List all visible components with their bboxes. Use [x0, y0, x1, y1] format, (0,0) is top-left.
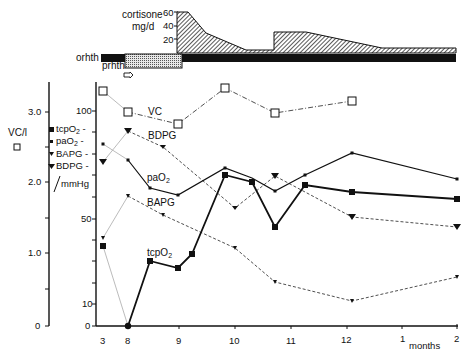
legend-bdpg: BDPG -	[56, 160, 89, 171]
mmhg-tick-10: 10	[82, 298, 93, 309]
vc-tick-3: 3.0	[28, 106, 41, 117]
x-tick-2: 2	[454, 333, 459, 344]
x-axis-label: months	[409, 340, 440, 351]
vc-axis-label: VC/l	[8, 127, 27, 138]
vc-tick-0: 0	[35, 320, 40, 331]
legend-tcpo2: tcpO2 -	[56, 123, 86, 135]
cortisone-label: cortisone	[122, 9, 163, 20]
x-tick-11: 11	[286, 335, 296, 346]
legend: tcpO2 - paO2 - BAPG - BDPG - mmHg	[48, 123, 89, 192]
pao2-legend-marker	[50, 140, 53, 143]
mmhg-tick-100: 100	[76, 105, 92, 116]
mmhg-tick-0: 0	[85, 320, 90, 331]
vc-tick-2: 2.0	[28, 176, 41, 187]
x-tick-10: 10	[229, 335, 240, 346]
prhth-label: prhth	[102, 60, 125, 71]
series-tcpo2: tcpO2	[100, 172, 460, 329]
x-tick-12: 12	[341, 334, 352, 345]
vc-legend-marker	[14, 144, 20, 150]
x-tick-1: 1	[400, 333, 405, 344]
bapg-legend-marker	[49, 152, 54, 156]
mmhg-tick-50: 50	[81, 213, 92, 224]
annotation-pao2: paO2	[147, 172, 170, 184]
cortisone-axis: 60 40 20	[163, 7, 178, 45]
annotation-tcpo2: tcpO2	[147, 247, 172, 259]
vc-axis: 3.0 2.0 1.0 0 VC/l	[8, 82, 49, 331]
tcpo2-legend-marker	[49, 127, 54, 132]
chart-figure: cortisone mg/d 60 40 20 orhth prhth 3.0	[0, 0, 468, 354]
orhth-label: orhth	[76, 52, 99, 63]
annotation-vc: VC	[148, 106, 162, 117]
x-tick-8: 8	[125, 335, 130, 346]
x-tick-3: 3	[100, 335, 105, 346]
cortisone-tick-60: 60	[163, 7, 174, 18]
legend-bapg: BAPG -	[56, 148, 88, 159]
cortisone-panel: cortisone mg/d 60 40 20 orhth prhth	[76, 7, 456, 78]
legend-mmhg: mmHg	[61, 178, 89, 189]
series-vc: VC	[99, 84, 356, 128]
start-arrow-icon	[124, 72, 133, 78]
series-pao2: paO2	[102, 143, 459, 197]
annotation-bapg: BAPG	[147, 197, 175, 208]
x-tick-9: 9	[176, 335, 181, 346]
cortisone-unit: mg/d	[132, 21, 154, 32]
vc-tick-1: 1.0	[28, 247, 41, 258]
prhth-bar	[125, 54, 182, 68]
cortisone-tick-20: 20	[163, 34, 174, 45]
mmhg-axis: 100 50 10 0	[76, 82, 96, 331]
annotation-bdpg: BDPG	[148, 130, 177, 141]
legend-pao2: paO2 -	[56, 135, 84, 147]
cortisone-tick-40: 40	[163, 20, 174, 31]
cortisone-dose-area	[177, 12, 456, 53]
x-axis: 3 8 9 10 11 12 1 2 months	[96, 324, 459, 351]
